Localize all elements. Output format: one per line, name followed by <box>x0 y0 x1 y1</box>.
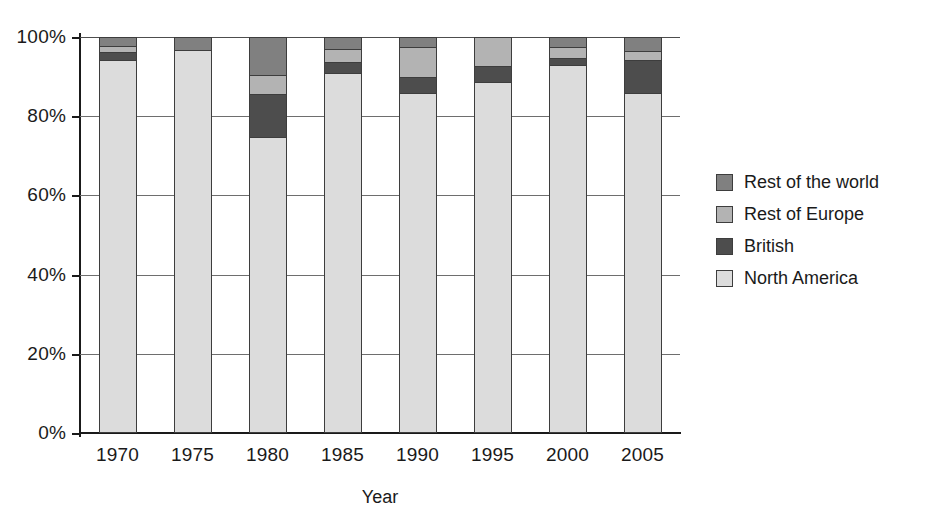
bar-segment[interactable] <box>324 73 362 433</box>
bar-segment[interactable] <box>549 58 587 65</box>
legend-item[interactable]: British <box>716 235 879 257</box>
bar-segment[interactable] <box>624 37 662 51</box>
x-tick-label-2005: 2005 <box>608 444 678 466</box>
x-tick-label-1980: 1980 <box>233 444 303 466</box>
bar-segment[interactable] <box>324 49 362 61</box>
plot-area <box>80 37 680 433</box>
bar-segment[interactable] <box>324 37 362 49</box>
y-tick-label: 20% <box>27 343 66 365</box>
bar-segment[interactable] <box>399 77 437 93</box>
bar-segment[interactable] <box>174 50 212 433</box>
x-axis-title: Year <box>80 487 680 508</box>
x-tick-label-1970: 1970 <box>83 444 153 466</box>
legend-swatch-icon <box>716 238 733 255</box>
bar-segment[interactable] <box>249 137 287 433</box>
chart-container: 0%20%40%60%80%100% 197019751980198519901… <box>0 0 931 518</box>
bar-1980[interactable] <box>249 37 287 433</box>
bar-segment[interactable] <box>324 62 362 73</box>
legend-swatch-icon <box>716 174 733 191</box>
legend-swatch-icon <box>716 270 733 287</box>
bar-2000[interactable] <box>549 37 587 433</box>
y-tick-mark <box>72 37 80 39</box>
y-tick-mark <box>72 116 80 118</box>
bar-2005[interactable] <box>624 37 662 433</box>
bar-1970[interactable] <box>99 37 137 433</box>
y-tick-mark <box>72 275 80 277</box>
bar-segment[interactable] <box>399 47 437 77</box>
y-tick-mark <box>72 195 80 197</box>
bar-segment[interactable] <box>99 52 137 60</box>
chart-legend: Rest of the worldRest of EuropeBritishNo… <box>716 171 879 289</box>
x-tick-label-1995: 1995 <box>458 444 528 466</box>
bar-segment[interactable] <box>174 37 212 50</box>
bar-segment[interactable] <box>474 82 512 433</box>
legend-label: Rest of Europe <box>744 205 864 223</box>
y-tick-label: 0% <box>38 422 66 444</box>
bar-segment[interactable] <box>99 37 137 46</box>
bar-segment[interactable] <box>624 60 662 93</box>
y-tick-mark <box>72 433 80 435</box>
x-tick-label-1985: 1985 <box>308 444 378 466</box>
y-tick-label: 40% <box>27 264 66 286</box>
bar-1990[interactable] <box>399 37 437 433</box>
y-tick-label: 80% <box>27 105 66 127</box>
bar-segment[interactable] <box>399 93 437 433</box>
bar-1995[interactable] <box>474 37 512 433</box>
legend-label: British <box>744 237 794 255</box>
bar-segment[interactable] <box>249 37 287 75</box>
y-tick-mark <box>72 354 80 356</box>
bar-segment[interactable] <box>549 47 587 58</box>
bar-1975[interactable] <box>174 37 212 433</box>
x-tick-label-2000: 2000 <box>533 444 603 466</box>
legend-item[interactable]: Rest of the world <box>716 171 879 193</box>
bar-segment[interactable] <box>99 60 137 433</box>
legend-label: Rest of the world <box>744 173 879 191</box>
bar-segment[interactable] <box>624 93 662 433</box>
x-tick-label-1990: 1990 <box>383 444 453 466</box>
bar-segment[interactable] <box>249 75 287 94</box>
legend-item[interactable]: North America <box>716 267 879 289</box>
x-tick-label-1975: 1975 <box>158 444 228 466</box>
bar-segment[interactable] <box>549 65 587 433</box>
bar-segment[interactable] <box>474 66 512 83</box>
bar-1985[interactable] <box>324 37 362 433</box>
legend-swatch-icon <box>716 206 733 223</box>
bars-group <box>80 37 680 433</box>
y-tick-label: 60% <box>27 184 66 206</box>
bar-segment[interactable] <box>549 37 587 47</box>
legend-label: North America <box>744 269 858 287</box>
bar-segment[interactable] <box>624 51 662 59</box>
bar-segment[interactable] <box>474 37 512 66</box>
legend-item[interactable]: Rest of Europe <box>716 203 879 225</box>
bar-segment[interactable] <box>249 94 287 138</box>
bar-segment[interactable] <box>399 37 437 47</box>
y-tick-label: 100% <box>17 26 66 48</box>
